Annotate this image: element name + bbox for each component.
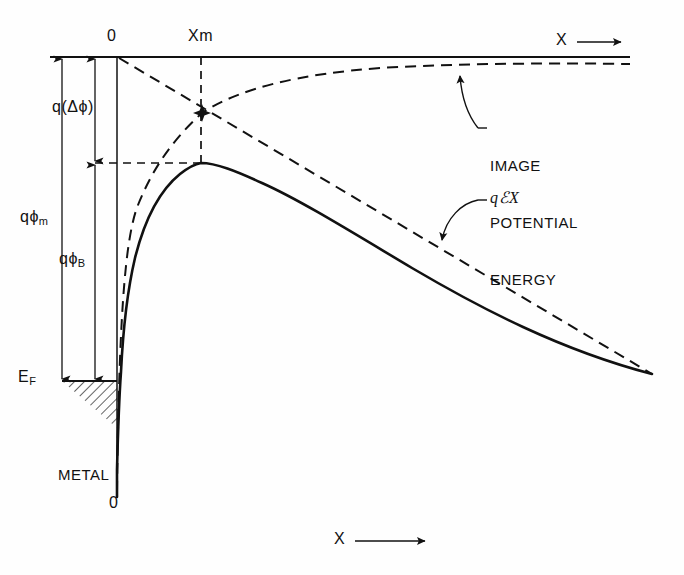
delta-phi-label: q(Δϕ) [52,98,94,116]
fermi-prefix: E [18,368,29,385]
phi-m-label: qϕm [20,208,48,227]
origin-label-top: 0 [107,27,116,45]
phi-b-prefix: qϕ [59,250,78,267]
image-potential-line-2: POTENTIAL [490,213,578,232]
image-potential-line-1: IMAGE [490,156,578,175]
fermi-level-label: EF [18,368,36,387]
fermi-subscript: F [29,375,36,387]
phi-b-subscript: B [78,257,85,269]
image-potential-leader-line [460,76,487,128]
field-term-label: qℰX [490,188,519,207]
origin-label-bottom: 0 [109,494,118,512]
x-axis-label-bottom: X [334,530,345,548]
intersection-star-marker [193,104,211,122]
schottky-barrier-diagram: 0 Xm X X q(Δϕ) qϕm qϕB EF METAL 0 IMAGE … [0,0,684,575]
field-term-leader-line [442,200,487,240]
x-axis-label-top: X [556,31,567,49]
metal-hatched-region [62,381,117,428]
metal-label: METAL [58,466,109,483]
image-potential-energy-label: IMAGE POTENTIAL ENERGY [490,118,578,327]
phi-m-prefix: qϕ [20,208,39,225]
xm-label: Xm [188,27,213,45]
image-potential-line-3: ENERGY [490,270,578,289]
phi-m-subscript: m [39,215,48,227]
phi-b-label: qϕB [59,250,85,269]
diagram-canvas [0,0,684,575]
